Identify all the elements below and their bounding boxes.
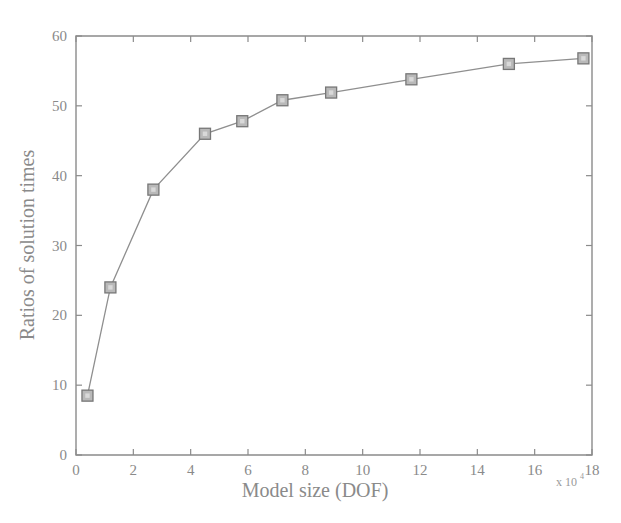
x-axis-title: Model size (DOF): [242, 479, 389, 502]
x-tick-label: 14: [470, 462, 486, 478]
x-tick-label: 2: [130, 462, 138, 478]
x-tick-label: 8: [302, 462, 310, 478]
y-tick-label: 20: [52, 307, 67, 323]
x-axis-multiplier-exponent: 4: [580, 472, 584, 481]
x-tick-label: 4: [187, 462, 195, 478]
y-tick-label: 10: [52, 377, 67, 393]
x-tick-label: 0: [72, 462, 80, 478]
data-point-marker-center: [280, 98, 284, 102]
y-tick-label: 60: [52, 28, 67, 44]
y-axis-title: Ratios of solution times: [16, 150, 38, 341]
data-point-marker-center: [240, 119, 244, 123]
x-axis-multiplier-label: x 10: [556, 475, 577, 489]
x-tick-label: 10: [355, 462, 370, 478]
chart-background: [0, 0, 621, 523]
y-tick-label: 0: [60, 447, 68, 463]
x-tick-label: 12: [413, 462, 428, 478]
x-tick-label: 18: [585, 462, 600, 478]
data-point-marker-center: [507, 62, 511, 66]
y-tick-label: 50: [52, 98, 67, 114]
chart-figure: 024681012141618 0102030405060 Model size…: [0, 0, 621, 523]
data-point-marker-center: [203, 132, 207, 136]
data-point-marker-center: [85, 393, 89, 397]
x-tick-label: 6: [244, 462, 252, 478]
data-point-marker-center: [329, 90, 333, 94]
y-tick-label: 40: [52, 168, 67, 184]
data-point-marker-center: [409, 77, 413, 81]
y-tick-label: 30: [52, 238, 67, 254]
ratios-of-solution-times-line-chart: 024681012141618 0102030405060 Model size…: [0, 0, 621, 523]
data-point-marker-center: [581, 56, 585, 60]
x-tick-label: 16: [527, 462, 543, 478]
data-point-marker-center: [108, 285, 112, 289]
data-point-marker-center: [151, 187, 155, 191]
